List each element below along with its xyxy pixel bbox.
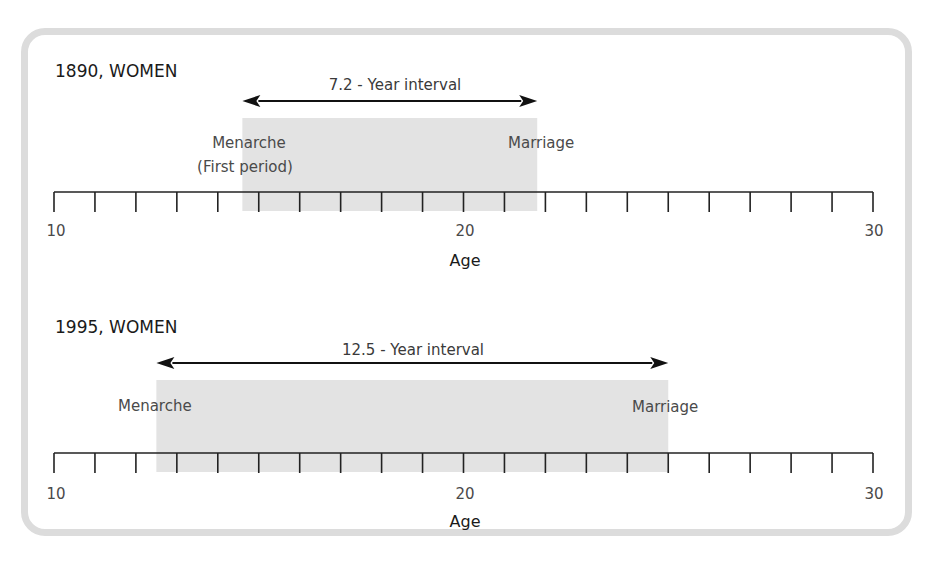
timeline-graphics — [0, 0, 926, 569]
arrow-left-icon — [156, 357, 174, 369]
panel-2-marriage-label: Marriage — [632, 398, 698, 416]
panel-2-axis-title: Age — [450, 512, 481, 531]
arrow-right-icon — [650, 357, 668, 369]
arrow-left-icon — [242, 95, 260, 107]
panel-1-tick-20: 20 — [455, 222, 474, 240]
panel-2-interval-label: 12.5 - Year interval — [342, 341, 484, 359]
panel-2-tick-20: 20 — [455, 485, 474, 503]
panel-1-marriage-label: Marriage — [508, 134, 574, 152]
panel-2-interval-shade — [156, 380, 668, 472]
panel-1-tick-30: 30 — [864, 222, 883, 240]
arrow-right-icon — [519, 95, 537, 107]
panel-1-menarche-sublabel: (First period) — [197, 158, 293, 176]
panel-2-title: 1995, WOMEN — [55, 317, 177, 337]
panel-1-tick-10: 10 — [46, 222, 65, 240]
panel-2-tick-30: 30 — [864, 485, 883, 503]
panel-1-axis-title: Age — [450, 251, 481, 270]
panel-2-menarche-label: Menarche — [118, 397, 192, 415]
panel-1-interval-label: 7.2 - Year interval — [329, 76, 462, 94]
panel-1-menarche-label: Menarche — [212, 134, 286, 152]
panel-2-tick-10: 10 — [46, 485, 65, 503]
panel-1-title: 1890, WOMEN — [55, 61, 177, 81]
